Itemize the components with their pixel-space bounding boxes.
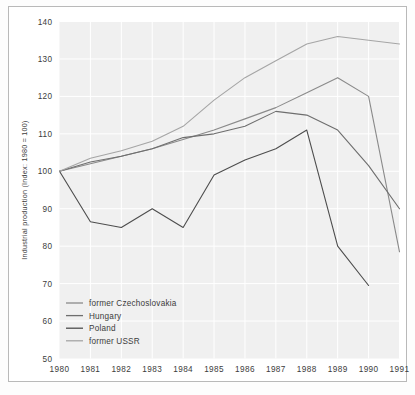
x-axis-tick-label: 1985	[204, 365, 224, 374]
x-axis-tick-label: 1983	[142, 365, 162, 374]
legend-label-hungary: Hungary	[89, 312, 122, 321]
x-axis-tick-label: 1989	[328, 365, 348, 374]
x-axis-tick-label: 1981	[80, 365, 100, 374]
chart-figure: 1401301201101009080706050198019811982198…	[0, 0, 415, 395]
legend-label-former-ussr: former USSR	[89, 337, 140, 346]
x-axis-tick-label: 1980	[50, 365, 70, 374]
y-axis-tick-label: 50	[43, 355, 53, 364]
legend-label-poland: Poland	[89, 324, 116, 333]
y-axis-tick-label: 120	[38, 92, 53, 101]
y-axis-tick-label: 110	[38, 130, 52, 139]
y-axis-tick-label: 70	[43, 280, 53, 289]
x-axis-tick-label: 1990	[359, 365, 379, 374]
legend-label-former-czechoslovakia: former Czechoslovakia	[89, 299, 177, 308]
x-axis-tick-label: 1987	[266, 365, 286, 374]
x-axis-tick-label: 1988	[297, 365, 317, 374]
industrial-production-line-chart: 1401301201101009080706050198019811982198…	[0, 0, 415, 395]
x-axis-tick-label: 1991	[390, 365, 410, 374]
y-axis-tick-label: 140	[38, 18, 53, 27]
y-axis-tick-label: 100	[38, 167, 53, 176]
y-axis-tick-label: 130	[38, 55, 53, 64]
x-axis-tick-label: 1984	[173, 365, 193, 374]
x-axis-tick-label: 1986	[235, 365, 255, 374]
y-axis-tick-label: 90	[43, 205, 53, 214]
y-axis-tick-label: 60	[43, 317, 53, 326]
y-axis-title: Industrial production (Index: 1980 = 100…	[20, 120, 29, 260]
x-axis-tick-label: 1982	[111, 365, 131, 374]
y-axis-tick-label: 80	[43, 242, 53, 251]
